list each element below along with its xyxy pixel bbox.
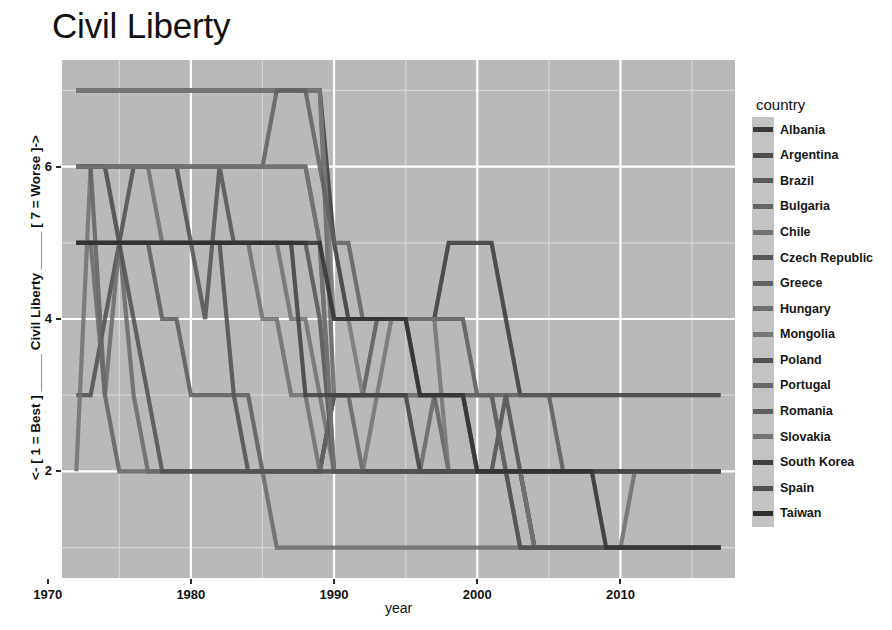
series-line — [76, 167, 720, 548]
x-tick-mark — [47, 579, 49, 584]
legend-color-swatch-icon — [752, 450, 774, 476]
legend-color-swatch-icon — [752, 219, 774, 245]
legend-item[interactable]: Mongolia — [752, 322, 892, 348]
legend-item[interactable]: Greece — [752, 271, 892, 297]
series-line — [76, 90, 720, 471]
series-line — [76, 90, 720, 471]
legend-item-label: Argentina — [780, 149, 838, 162]
legend-item-label: Greece — [780, 277, 822, 290]
series-line — [76, 243, 720, 472]
y-tick-label: 4 — [22, 311, 52, 326]
legend-item[interactable]: Portugal — [752, 373, 892, 399]
page-title: Civil Liberty — [52, 6, 230, 46]
legend-item-label: Taiwan — [780, 507, 821, 520]
legend: country AlbaniaArgentinaBrazilBulgariaCh… — [752, 96, 892, 527]
series-line — [76, 167, 720, 548]
legend-item-list: AlbaniaArgentinaBrazilBulgariaChileCzech… — [752, 117, 892, 527]
legend-item-label: Romania — [780, 405, 833, 418]
legend-item[interactable]: Slovakia — [752, 424, 892, 450]
legend-item-label: Portugal — [780, 379, 831, 392]
x-tick-mark — [190, 579, 192, 584]
legend-item-label: Brazil — [780, 175, 814, 188]
legend-item-label: Czech Republic — [780, 252, 873, 265]
legend-item-label: Spain — [780, 482, 814, 495]
legend-title: country — [756, 96, 892, 113]
legend-item-label: Chile — [780, 226, 811, 239]
legend-color-swatch-icon — [752, 424, 774, 450]
legend-color-swatch-icon — [752, 296, 774, 322]
legend-color-swatch-icon — [752, 194, 774, 220]
legend-item[interactable]: Bulgaria — [752, 194, 892, 220]
x-tick-mark — [476, 579, 478, 584]
series-line — [76, 167, 720, 548]
legend-item[interactable]: Albania — [752, 117, 892, 143]
legend-item-label: Bulgaria — [780, 200, 830, 213]
plot-lines — [62, 60, 735, 578]
y-tick-label: 6 — [22, 159, 52, 174]
legend-item-label: Poland — [780, 354, 822, 367]
legend-item[interactable]: South Korea — [752, 450, 892, 476]
legend-item[interactable]: Spain — [752, 475, 892, 501]
legend-item[interactable]: Taiwan — [752, 501, 892, 527]
y-tick-mark — [56, 470, 61, 472]
legend-item[interactable]: Czech Republic — [752, 245, 892, 271]
legend-color-swatch-icon — [752, 168, 774, 194]
series-line — [76, 167, 720, 548]
y-axis-title: <- [ 1 = Best ] _____ Civil Liberty ____… — [28, 48, 43, 568]
y-tick-mark — [56, 318, 61, 320]
legend-item[interactable]: Argentina — [752, 143, 892, 169]
legend-color-swatch-icon — [752, 475, 774, 501]
legend-color-swatch-icon — [752, 245, 774, 271]
legend-color-swatch-icon — [752, 143, 774, 169]
legend-item[interactable]: Poland — [752, 347, 892, 373]
series-line — [76, 167, 720, 548]
y-tick-label: 2 — [22, 463, 52, 478]
x-axis-title: year — [62, 600, 735, 616]
legend-item-label: Slovakia — [780, 431, 831, 444]
legend-color-swatch-icon — [752, 117, 774, 143]
legend-color-swatch-icon — [752, 501, 774, 527]
legend-color-swatch-icon — [752, 373, 774, 399]
series-line — [76, 90, 720, 471]
legend-item-label: Mongolia — [780, 328, 835, 341]
legend-item[interactable]: Chile — [752, 219, 892, 245]
x-tick-mark — [619, 579, 621, 584]
legend-item[interactable]: Romania — [752, 399, 892, 425]
legend-item-label: South Korea — [780, 456, 854, 469]
legend-item-label: Albania — [780, 124, 825, 137]
x-tick-mark — [333, 579, 335, 584]
series-line — [76, 243, 720, 472]
chart-figure: Civil Liberty <- [ 1 = Best ] _____ Civi… — [0, 0, 892, 630]
legend-color-swatch-icon — [752, 399, 774, 425]
legend-item[interactable]: Brazil — [752, 168, 892, 194]
legend-color-swatch-icon — [752, 347, 774, 373]
legend-item-label: Hungary — [780, 303, 831, 316]
legend-color-swatch-icon — [752, 271, 774, 297]
legend-item[interactable]: Hungary — [752, 296, 892, 322]
plot-panel — [62, 60, 735, 578]
y-tick-mark — [56, 166, 61, 168]
legend-color-swatch-icon — [752, 322, 774, 348]
